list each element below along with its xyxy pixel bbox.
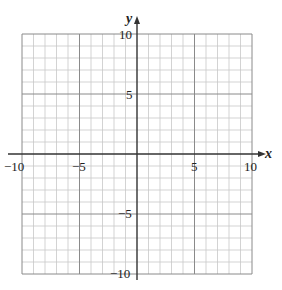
x-tick-label-5: 5 (191, 160, 198, 173)
x-tick-label-neg5: −5 (72, 160, 86, 173)
y-tick-label-neg10: −10 (110, 267, 130, 280)
y-tick-label-neg5: −5 (118, 207, 132, 220)
coordinate-grid (0, 0, 282, 290)
y-tick-label-10: 10 (119, 28, 132, 41)
x-tick-label-neg10: −10 (4, 160, 24, 173)
x-tick-label-10: 10 (244, 160, 257, 173)
y-axis-label: y (126, 12, 132, 26)
x-axis-label: x (265, 147, 272, 161)
y-axis-arrow-icon (134, 16, 140, 24)
y-tick-label-5: 5 (126, 88, 133, 101)
axes (8, 16, 266, 280)
